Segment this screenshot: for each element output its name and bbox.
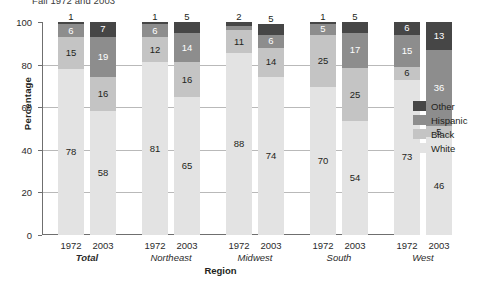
bar-south-2003[interactable]: 5425175 (342, 22, 368, 235)
segment-value-label: 5 (258, 14, 284, 24)
bar-south-1972[interactable]: 702551 (310, 22, 336, 235)
x-axis-year-label: 2003 (419, 240, 459, 251)
segment-value-label: 58 (90, 168, 116, 178)
segment-value-label: 7 (90, 25, 116, 35)
segment-value-label: 5 (310, 25, 336, 35)
segment-value-label: 13 (426, 31, 452, 41)
bar-segment-white[interactable]: 81 (142, 62, 168, 235)
bar-segment-other[interactable]: 7 (90, 22, 116, 37)
y-axis-tick-label: 40 (6, 144, 32, 155)
bar-segment-hispanic[interactable]: 14 (174, 33, 200, 63)
bar-segment-white[interactable]: 88 (226, 53, 252, 235)
bar-segment-hispanic[interactable]: 17 (342, 33, 368, 69)
legend-item-other[interactable]: Other (413, 99, 479, 113)
y-axis-tick-label: 0 (6, 230, 32, 241)
bar-northeast-2003[interactable]: 6516145 (174, 22, 200, 235)
legend-label: Hispanic (431, 115, 467, 126)
bar-segment-other[interactable]: 5 (174, 22, 200, 33)
segment-value-label: 54 (342, 173, 368, 183)
segment-value-label: 2 (226, 12, 252, 22)
segment-value-label: 15 (394, 46, 420, 56)
bar-midwest-2003[interactable]: 741465 (258, 22, 284, 235)
bar-segment-black[interactable]: 12 (142, 37, 168, 63)
y-axis-tick-label: 60 (6, 102, 32, 113)
segment-value-label: 78 (58, 147, 84, 157)
segment-value-label: 5 (342, 12, 368, 22)
segment-value-label: 65 (174, 161, 200, 171)
bar-segment-other[interactable]: 1 (58, 22, 84, 24)
legend-item-black[interactable]: Black (413, 127, 479, 141)
bar-segment-black[interactable]: 15 (58, 37, 84, 69)
segment-value-label: 6 (142, 26, 168, 36)
legend-item-hispanic[interactable]: Hispanic (413, 113, 479, 127)
bar-total-2003[interactable]: 5816197 (90, 22, 116, 235)
bar-segment-black[interactable]: 25 (310, 35, 336, 88)
bar-segment-hispanic[interactable]: 6 (58, 24, 84, 37)
bar-segment-hispanic[interactable] (226, 26, 252, 30)
segment-value-label: 1 (310, 12, 336, 22)
segment-value-label: 14 (174, 43, 200, 53)
bar-segment-black[interactable]: 14 (258, 48, 284, 78)
segment-value-label: 6 (58, 26, 84, 36)
legend-swatch-hispanic (413, 115, 426, 125)
x-axis-year-label: 2003 (335, 240, 375, 251)
y-axis-tick-label: 100 (6, 17, 32, 28)
bar-segment-hispanic[interactable]: 19 (90, 37, 116, 77)
bar-segment-hispanic[interactable]: 15 (394, 35, 420, 67)
bar-northeast-1972[interactable]: 811261 (142, 22, 168, 235)
bar-segment-white[interactable]: 74 (258, 77, 284, 235)
bar-segment-other[interactable]: 1 (310, 22, 336, 24)
bar-segment-other[interactable]: 13 (426, 22, 452, 50)
segment-value-label: 1 (58, 12, 84, 22)
segment-value-label: 16 (174, 75, 200, 85)
legend: OtherHispanicBlackWhite (413, 99, 479, 155)
bar-total-1972[interactable]: 781561 (58, 22, 84, 235)
segment-value-label: 14 (258, 58, 284, 68)
bar-segment-white[interactable]: 78 (58, 69, 84, 235)
segment-value-label: 88 (226, 139, 252, 149)
y-axis-tickmark (38, 235, 42, 236)
segment-value-label: 1 (142, 12, 168, 22)
bar-segment-black[interactable]: 11 (226, 30, 252, 53)
bar-segment-black[interactable]: 16 (90, 77, 116, 111)
legend-swatch-white (413, 143, 426, 153)
bar-segment-hispanic[interactable]: 5 (310, 24, 336, 35)
segment-value-label: 19 (90, 52, 116, 62)
bar-segment-hispanic[interactable]: 6 (142, 24, 168, 37)
chart-title: Fall 1972 and 2003 (32, 0, 115, 6)
legend-label: Other (431, 101, 455, 112)
segment-value-label: 36 (426, 83, 452, 93)
segment-value-label: 74 (258, 151, 284, 161)
x-axis-year-label: 2003 (251, 240, 291, 251)
bar-segment-other[interactable]: 5 (258, 24, 284, 35)
bar-segment-black[interactable]: 6 (394, 67, 420, 80)
segment-value-label: 46 (426, 181, 452, 191)
legend-label: Black (431, 129, 454, 140)
segment-value-label: 25 (342, 90, 368, 100)
bar-segment-other[interactable]: 6 (394, 22, 420, 35)
segment-value-label: 17 (342, 46, 368, 56)
segment-value-label: 70 (310, 156, 336, 166)
plot-area: 7815615816197811261651614588112741465702… (42, 22, 399, 235)
legend-swatch-black (413, 129, 426, 139)
segment-value-label: 5 (174, 12, 200, 22)
bar-segment-other[interactable]: 1 (142, 22, 168, 24)
y-axis-tick-label: 80 (6, 59, 32, 70)
bar-segment-hispanic[interactable]: 6 (258, 35, 284, 48)
bar-segment-other[interactable]: 2 (226, 22, 252, 26)
bar-midwest-1972[interactable]: 88112 (226, 22, 252, 235)
bar-segment-other[interactable]: 5 (342, 22, 368, 33)
x-axis-group-label-south: South (294, 252, 384, 263)
legend-swatch-other (413, 101, 426, 111)
y-axis-tick-labels: 020406080100 (6, 0, 32, 282)
bar-segment-black[interactable]: 25 (342, 68, 368, 121)
bar-segment-white[interactable]: 65 (174, 97, 200, 235)
bar-segment-white[interactable]: 58 (90, 111, 116, 235)
segment-value-label: 11 (226, 37, 252, 47)
bar-segment-black[interactable]: 16 (174, 62, 200, 96)
bar-segment-white[interactable]: 54 (342, 121, 368, 235)
legend-item-white[interactable]: White (413, 141, 479, 155)
segment-value-label: 12 (142, 45, 168, 55)
bar-segment-white[interactable]: 70 (310, 87, 336, 235)
x-axis-year-label: 2003 (167, 240, 207, 251)
